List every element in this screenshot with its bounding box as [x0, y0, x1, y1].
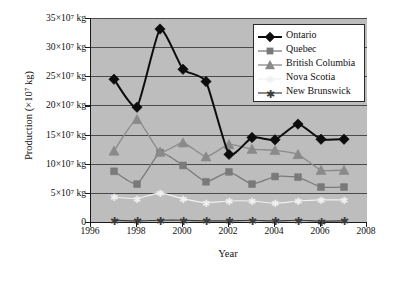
- data-point-marker: [201, 152, 211, 161]
- y-tick-label: 10×10⁷ kg: [6, 159, 86, 169]
- data-point-marker: ✱: [248, 196, 256, 207]
- x-axis-title: Year: [90, 248, 366, 259]
- data-point-marker: [295, 174, 302, 181]
- data-point-marker: [341, 184, 348, 191]
- x-tick-mark: [320, 222, 321, 227]
- data-point-marker: ✱: [156, 188, 164, 199]
- data-point-marker: [203, 178, 210, 185]
- legend-item-new-brunswick[interactable]: ✱New Brunswick: [257, 84, 360, 98]
- data-point-marker: [178, 64, 188, 74]
- y-tick-label: 20×10⁷ kg: [6, 100, 86, 110]
- y-tick-label: 5×10⁷ kg: [6, 188, 86, 198]
- data-point-marker: [318, 184, 325, 191]
- legend-marker-icon: [257, 29, 283, 41]
- x-tick-label: 2006: [297, 226, 343, 236]
- x-tick-label: 1998: [113, 226, 159, 236]
- data-point-marker: [316, 134, 326, 144]
- data-point-marker: [316, 165, 326, 174]
- legend-label: Nova Scotia: [283, 72, 335, 82]
- y-tick-label: 15×10⁷ kg: [6, 130, 86, 140]
- data-point-marker: [226, 168, 233, 175]
- line-chart: Production (×10⁷ kg) 35×10⁷ kg30×10⁷ kg2…: [0, 0, 404, 284]
- data-point-marker: [132, 102, 142, 112]
- data-point-marker: ✱: [340, 195, 348, 206]
- data-point-marker: [339, 134, 349, 144]
- data-point-marker: ✱: [110, 215, 119, 227]
- legend-marker-icon: [257, 43, 283, 55]
- y-tick-label: 25×10⁷ kg: [6, 71, 86, 81]
- legend-item-ontario[interactable]: Ontario: [257, 28, 360, 42]
- x-tick-mark: [136, 222, 137, 227]
- data-point-marker: [132, 114, 142, 123]
- x-tick-mark: [182, 222, 183, 227]
- data-point-marker: ✱: [294, 196, 302, 207]
- data-point-marker: [109, 74, 119, 84]
- data-point-marker: ✱: [110, 192, 118, 203]
- legend-item-nova-scotia[interactable]: ✱Nova Scotia: [257, 70, 360, 84]
- legend: OntarioQuebecBritish Columbia✱Nova Scoti…: [253, 24, 365, 102]
- data-point-marker: [270, 135, 280, 145]
- svg-text:✱: ✱: [266, 74, 274, 85]
- data-point-marker: ✱: [156, 215, 165, 227]
- legend-marker-icon: ✱: [257, 85, 283, 97]
- x-tick-mark: [90, 222, 91, 227]
- legend-label: New Brunswick: [283, 86, 351, 96]
- data-point-marker: [111, 168, 118, 175]
- x-tick-label: 2008: [343, 226, 389, 236]
- x-tick-mark: [366, 222, 367, 227]
- series-nova-scotia: ✱✱✱✱✱✱✱✱✱✱✱: [110, 188, 348, 209]
- y-tick-label: 30×10⁷ kg: [6, 42, 86, 52]
- data-point-marker: ✱: [271, 198, 279, 209]
- legend-label: Quebec: [283, 44, 317, 54]
- data-point-marker: [134, 181, 141, 188]
- x-tick-label: 1996: [67, 226, 113, 236]
- series-british-columbia: [109, 114, 349, 174]
- x-tick-label: 2000: [159, 226, 205, 236]
- svg-text:✱: ✱: [266, 88, 275, 100]
- legend-item-british-columbia[interactable]: British Columbia: [257, 56, 360, 70]
- x-tick-mark: [228, 222, 229, 227]
- data-point-marker: ✱: [225, 196, 233, 207]
- data-point-marker: [180, 162, 187, 169]
- legend-label: Ontario: [283, 30, 317, 40]
- data-point-marker: ✱: [248, 215, 257, 227]
- data-point-marker: [293, 149, 303, 158]
- x-tick-label: 2002: [205, 226, 251, 236]
- x-tick-label: 2004: [251, 226, 297, 236]
- y-axis-title: Production (×10⁷ kg): [23, 26, 34, 206]
- data-point-marker: ✱: [133, 194, 141, 205]
- y-tick-label: 35×10⁷ kg: [6, 13, 86, 23]
- data-point-marker: ✱: [202, 198, 210, 209]
- data-point-marker: [249, 181, 256, 188]
- data-point-marker: ✱: [179, 194, 187, 205]
- data-point-marker: ✱: [317, 195, 325, 206]
- x-tick-mark: [274, 222, 275, 227]
- data-point-marker: ✱: [294, 215, 303, 227]
- legend-marker-icon: [257, 57, 283, 69]
- data-point-marker: [109, 146, 119, 155]
- legend-marker-icon: ✱: [257, 71, 283, 83]
- data-point-marker: [272, 173, 279, 180]
- data-point-marker: [293, 119, 303, 129]
- data-point-marker: [224, 149, 234, 159]
- legend-item-quebec[interactable]: Quebec: [257, 42, 360, 56]
- legend-label: British Columbia: [283, 58, 355, 68]
- data-point-marker: [178, 138, 188, 147]
